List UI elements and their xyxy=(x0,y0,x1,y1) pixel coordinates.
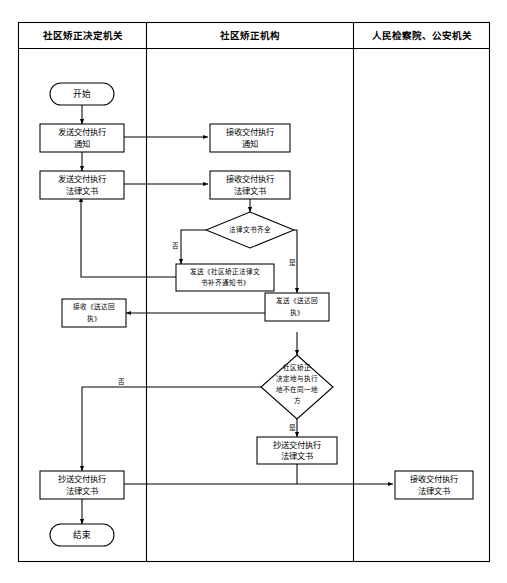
node-label: 开始 xyxy=(73,88,91,99)
node-label-line2: 执》 xyxy=(87,314,101,323)
node-label-line2: 法律文书 xyxy=(418,486,450,496)
node-label-line2: 法律文书 xyxy=(234,186,266,196)
edge-send-supplement-to-send-documents xyxy=(81,197,176,277)
lane-header-decision-org: 社区矫正决定机关 xyxy=(42,30,123,41)
node-label-line1: 接收《送达回 xyxy=(73,302,115,311)
node-label-line1: 抄送交付执行 xyxy=(273,440,321,450)
node-cc-documents-left[interactable]: 抄送交付执行 法律文书 xyxy=(40,471,124,499)
node-check-location[interactable]: 社区矫正 决定地与执行 地不在同一地 方 xyxy=(261,355,333,419)
branch-label-location-yes: 是 xyxy=(289,424,296,432)
node-send-notice[interactable]: 发送交付执行 通知 xyxy=(40,124,124,152)
node-label-line1: 发送《送达回 xyxy=(276,296,318,305)
edge-check-documents-no xyxy=(181,230,206,264)
node-label-line1: 发送交付执行 xyxy=(58,127,106,137)
node-label-line2: 执》 xyxy=(290,308,304,317)
node-start[interactable]: 开始 xyxy=(50,83,114,105)
node-label-line3: 地不在同一地 xyxy=(276,385,318,394)
node-label-line1: 接收交付执行 xyxy=(410,474,458,484)
node-label-line4: 方 xyxy=(294,396,301,405)
node-label-line1: 接收交付执行 xyxy=(226,127,274,137)
node-label: 法律文书齐全 xyxy=(229,225,271,234)
node-label-line1: 发送交付执行 xyxy=(58,174,106,184)
node-label-line2: 决定地与执行 xyxy=(276,374,318,383)
node-label-line1: 社区矫正 xyxy=(283,363,311,372)
flowchart-root: 社区矫正决定机关 社区矫正机构 人民检察院、公安机关 xyxy=(0,0,507,583)
node-receive-cc-documents[interactable]: 接收交付执行 法律文书 xyxy=(395,471,473,499)
node-send-receipt[interactable]: 发送《送达回 执》 xyxy=(265,293,329,321)
node-label-line2: 法律文书 xyxy=(66,486,98,496)
edge-check-location-no xyxy=(82,387,261,471)
lane-header-label: 社区矫正决定机关 xyxy=(42,30,123,41)
node-send-documents[interactable]: 发送交付执行 法律文书 xyxy=(40,171,124,199)
node-label-line2: 法律文书 xyxy=(281,451,313,461)
branch-label-documents-no: 否 xyxy=(172,242,179,250)
node-check-documents[interactable]: 法律文书齐全 xyxy=(206,212,294,248)
branch-label-documents-yes: 是 xyxy=(289,259,296,267)
lane-header-procuratorate-police: 人民检察院、公安机关 xyxy=(372,30,472,41)
connector-layer xyxy=(81,105,393,524)
node-cc-documents-mid[interactable]: 抄送交付执行 法律文书 xyxy=(257,437,337,464)
node-label-line2: 通知 xyxy=(242,139,258,149)
node-receive-documents[interactable]: 接收交付执行 法律文书 xyxy=(210,171,290,199)
node-label-line1: 发送《社区矫正法律文 xyxy=(190,267,260,276)
node-send-supplement[interactable]: 发送《社区矫正法律文 书补齐通知书》 xyxy=(176,264,274,291)
node-end[interactable]: 结束 xyxy=(50,524,114,546)
node-label-line1: 接收交付执行 xyxy=(226,174,274,184)
flowchart-canvas: 社区矫正决定机关 社区矫正机构 人民检察院、公安机关 xyxy=(0,0,507,583)
branch-label-location-no: 否 xyxy=(118,378,125,386)
node-label-line1: 抄送交付执行 xyxy=(58,474,106,484)
node-label: 结束 xyxy=(73,529,91,540)
node-receive-receipt[interactable]: 接收《送达回 执》 xyxy=(62,299,126,327)
node-label-line2: 通知 xyxy=(74,139,90,149)
lane-header-correction-org: 社区矫正机构 xyxy=(219,30,280,41)
node-label-line2: 书补齐通知书》 xyxy=(201,278,250,287)
lane-header-label: 人民检察院、公安机关 xyxy=(372,30,472,41)
node-label-line2: 法律文书 xyxy=(66,186,98,196)
lane-header-label: 社区矫正机构 xyxy=(219,30,280,41)
node-receive-notice[interactable]: 接收交付执行 通知 xyxy=(210,124,290,152)
